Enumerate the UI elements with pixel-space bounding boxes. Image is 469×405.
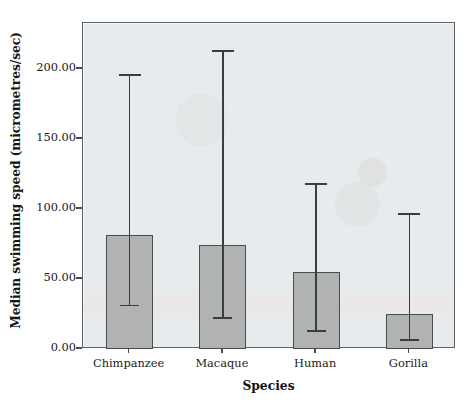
y-axis-title-text: Median swimming speed (micrometres/sec)	[8, 32, 23, 329]
y-axis-tick-label: 100.00	[32, 202, 76, 213]
x-axis-tick-mark	[314, 348, 316, 353]
plot-content	[83, 23, 454, 347]
error-bar-cap-upper-gorilla	[398, 213, 420, 215]
error-bar-cap-upper-macaque	[212, 50, 234, 52]
error-bar-cap-lower-human	[307, 330, 326, 332]
error-bar-line-gorilla	[409, 214, 411, 340]
error-bar-line-human	[315, 184, 317, 331]
error-bar-cap-lower-gorilla	[400, 339, 419, 341]
y-axis-tick-label: 50.00	[32, 272, 76, 283]
error-bar-cap-upper-chimpanzee	[119, 74, 141, 76]
y-axis-tick-mark	[76, 277, 82, 279]
x-axis-tick-mark	[408, 348, 410, 353]
x-axis-tick-label-macaque: Macaque	[195, 356, 248, 370]
plot-area	[82, 22, 455, 348]
y-axis-tick-label: 0.00	[32, 342, 76, 353]
y-axis-tick-mark	[76, 207, 82, 209]
y-axis-title: Median swimming speed (micrometres/sec)	[0, 0, 30, 360]
y-axis-tick-mark	[76, 137, 82, 139]
error-bar-cap-lower-macaque	[213, 317, 232, 319]
error-bar-cap-lower-chimpanzee	[120, 305, 139, 307]
x-axis-tick-label-gorilla: Gorilla	[389, 356, 428, 370]
bar-chart-figure: Median swimming speed (micrometres/sec) …	[0, 0, 469, 405]
y-axis-tick-label: 150.00	[32, 132, 76, 143]
x-axis-tick-mark	[221, 348, 223, 353]
x-axis-tick-label-chimpanzee: Chimpanzee	[93, 356, 164, 370]
error-bar-line-chimpanzee	[129, 75, 131, 306]
y-axis-tick-mark	[76, 67, 82, 69]
error-bar-line-macaque	[222, 51, 224, 318]
y-axis-tick-label: 200.00	[32, 62, 76, 73]
error-bar-cap-upper-human	[305, 183, 327, 185]
y-axis-tick-labels: 0.0050.00100.00150.00200.00	[32, 0, 76, 405]
x-axis-title: Species	[82, 378, 455, 393]
y-axis-tick-mark	[76, 347, 82, 349]
x-axis-tick-mark	[128, 348, 130, 353]
x-axis-tick-label-human: Human	[294, 356, 336, 370]
